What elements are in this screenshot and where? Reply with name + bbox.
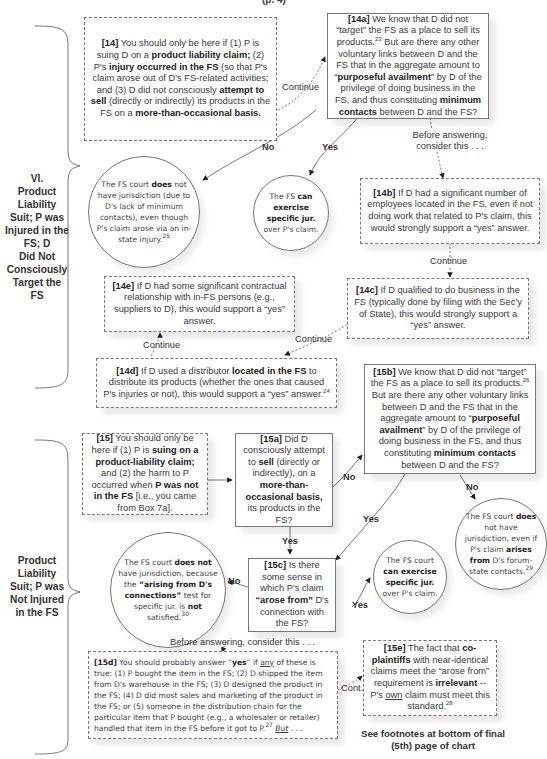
- section-label-line: Target the: [4, 276, 70, 289]
- text-run: does not: [174, 558, 211, 567]
- edge-label-yes: Yes: [352, 600, 368, 610]
- box-15[interactable]: [15] You should only be here if (1) P is…: [82, 433, 208, 515]
- text-run: located in the FS: [232, 366, 306, 376]
- text-run: If D qualified to do business in the FS …: [354, 285, 522, 330]
- text-run: But: [275, 724, 288, 733]
- text-run: If D used a distributor: [138, 366, 232, 376]
- edge-label-continue: Continue: [143, 340, 180, 350]
- outcome-15-can-exercise[interactable]: The FS court can exercise specific jur. …: [373, 540, 447, 614]
- footnote-ref: 30: [181, 610, 189, 617]
- outcome-14-no-jurisdiction[interactable]: The FS court does not have jurisdiction …: [88, 156, 200, 268]
- text-run: between D and the FS?: [377, 107, 477, 117]
- section-label-line: Did Not: [4, 250, 70, 263]
- box-15a[interactable]: [15a] Did D consciously attempt to sell …: [235, 433, 333, 527]
- section-label-line: FS; D: [4, 237, 70, 250]
- section-label-line: FS: [4, 289, 70, 302]
- box-15e[interactable]: [15e] The fact that co-plaintiffs with n…: [363, 640, 497, 716]
- section-label-line: in the FS: [4, 606, 70, 619]
- footnote-reference: See footnotes at bottom of final (5th) p…: [358, 728, 508, 752]
- box-14d[interactable]: [14d] If D used a distributor located in…: [96, 358, 337, 408]
- text-run: over P's claim.: [263, 225, 318, 234]
- box-14e[interactable]: [14e] If D had some significant contract…: [104, 276, 295, 332]
- box-14c[interactable]: [14c] If D qualified to do business in t…: [347, 278, 529, 339]
- text-run: not have jurisdiction (due to D's lack o…: [97, 180, 191, 244]
- edge-label-continue: Continue: [430, 256, 467, 266]
- text-run: more-than-occasional basis,: [246, 480, 323, 502]
- section-label-line: Suit; P was: [4, 211, 70, 224]
- edge-label-continue: Continue: [295, 334, 332, 344]
- edge-label-cont: Cont.: [341, 683, 363, 693]
- page-title-cut: (p. 4): [262, 0, 286, 5]
- footnote-ref: 29: [525, 564, 533, 571]
- section-label-line: Injured in the: [4, 224, 70, 237]
- text-run: [14b]: [373, 188, 395, 198]
- text-run: The FS court: [466, 512, 516, 521]
- text-run: The FS court: [101, 180, 151, 189]
- text-run: [15e]: [384, 643, 406, 653]
- text-run: purposeful availment: [337, 72, 431, 82]
- text-run: irrelevant: [435, 678, 477, 688]
- text-run: minimum contacts: [434, 448, 516, 458]
- text-run: [15d]: [94, 658, 117, 667]
- edge-label-no: No: [228, 576, 240, 586]
- text-run: does: [516, 512, 536, 521]
- text-run: [14c]: [356, 285, 378, 295]
- box-15d[interactable]: [15d] You should probably answer “yes” i…: [88, 651, 338, 739]
- box-14[interactable]: [14] You should only be here if (1) P is…: [84, 17, 277, 141]
- section-label-vi: VI. Product Liability Suit; P was Injure…: [4, 172, 70, 302]
- text-run: The FS court: [124, 558, 174, 567]
- text-run: injury occurred in the FS: [109, 62, 219, 72]
- box-15b[interactable]: [15b] We know that D did not “target” th…: [364, 364, 536, 474]
- section-label-line: Not Injured: [4, 593, 70, 606]
- section-label-line: Product: [4, 554, 70, 567]
- outcome-15b-no-jurisdiction[interactable]: The FS court does not have jurisdiction,…: [455, 498, 547, 590]
- edge-label-no: No: [466, 482, 478, 492]
- box-15c[interactable]: [15c] Is there some sense in which P's c…: [248, 558, 336, 632]
- text-run: more-than-occasional basis.: [135, 108, 261, 118]
- text-run: does: [151, 180, 171, 189]
- edge-label-no: No: [343, 472, 355, 482]
- footnote-ref: 27: [265, 721, 273, 728]
- section-label-line: Product: [4, 185, 70, 198]
- text-run: The FS court: [386, 556, 434, 565]
- text-run: [14d]: [116, 366, 138, 376]
- footnote-ref: 24: [323, 388, 330, 394]
- section-label-not-injured: Product Liability Suit; P was Not Injure…: [4, 554, 70, 619]
- text-run: of these is true: (1) P bought the item …: [94, 658, 323, 733]
- box-14a[interactable]: [14a] We know that D did not “target” th…: [327, 13, 489, 119]
- text-run: not: [188, 602, 202, 611]
- section-label-line: Liability: [4, 567, 70, 580]
- footnote-ref: 25: [162, 232, 170, 239]
- text-run: own: [385, 690, 402, 700]
- text-run: . . .: [288, 724, 302, 733]
- text-run: between D and the FS?: [401, 460, 499, 470]
- text-run: [15]: [96, 433, 113, 443]
- text-run: sell: [258, 457, 274, 467]
- text-run: yes: [232, 658, 247, 667]
- section-label-line: Suit; P was: [4, 580, 70, 593]
- footnote-ref: 23: [375, 36, 382, 42]
- text-run: “arose from”: [255, 595, 312, 605]
- edge-label-yes: Yes: [363, 514, 379, 524]
- edge-label-yes: Yes: [282, 536, 298, 546]
- text-run: The FS: [269, 192, 297, 201]
- edge-label-yes: Yes: [322, 142, 338, 152]
- text-run: [14a]: [348, 14, 370, 24]
- text-run: [15c]: [264, 560, 286, 570]
- text-run: [15b]: [373, 367, 395, 377]
- text-run: its products in the FS?: [248, 503, 321, 525]
- edge-label-before-answering: Before answering, consider this . . .: [170, 637, 315, 647]
- outcome-15c-no-jurisdiction[interactable]: The FS court does not have jurisdiction,…: [110, 532, 226, 648]
- edge-label-before-answering: Before answering, consider this . . .: [410, 130, 490, 152]
- edge-label-no: No: [262, 142, 274, 152]
- edge-label-continue: Continue: [282, 82, 319, 92]
- box-14b[interactable]: [14b] If D had a significant number of e…: [360, 178, 540, 244]
- section-label-line: VI.: [4, 172, 70, 185]
- footnote-ref: 26: [523, 377, 530, 383]
- text-run: You should probably answer “: [117, 658, 232, 667]
- outcome-14-can-exercise[interactable]: The FS can exercise specific jur. over P…: [253, 175, 329, 251]
- footnote-ref: 28: [446, 700, 453, 706]
- text-run: [14]: [102, 38, 119, 48]
- text-run: [14e]: [112, 281, 134, 291]
- text-run: can exercise specific jur.: [383, 567, 436, 587]
